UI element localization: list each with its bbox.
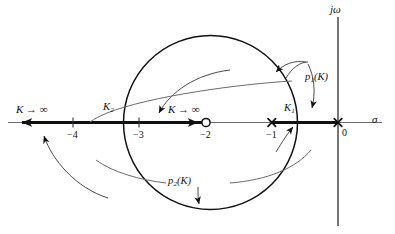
p2-annotation-curve	[96, 150, 311, 183]
root-locus-diagram	[0, 0, 395, 234]
axis-tick-label-minus1: −1	[266, 130, 277, 140]
jomega-axis-label: jω	[330, 4, 341, 15]
k1-label-subscript: 1	[291, 107, 295, 115]
p1-annotation-curve	[90, 81, 292, 122]
axis-tick-label-minus4: −4	[67, 130, 78, 140]
sigma-axis-label: σ	[372, 114, 377, 125]
origin-label: 0	[342, 128, 347, 138]
k-infinity-left-label: K → ∞	[16, 104, 48, 115]
p2-label: p2(K)	[168, 176, 191, 188]
axis-tick-label-minus3: −3	[133, 130, 144, 140]
k1-axis-arrow	[276, 127, 293, 152]
p1-label-arg: (K)	[314, 71, 328, 82]
k1-label: K1	[284, 103, 295, 115]
axis-tick-label-minus2: −2	[200, 130, 211, 140]
open-loop-zero-marker	[202, 118, 210, 126]
k2-label-subscript: 2	[110, 106, 114, 114]
k-infinity-right-label: K → ∞	[168, 104, 200, 115]
root-locus-figure: K → ∞ K → ∞ K1 K2 p1(K) p2(K) −4 −3 −2 −…	[0, 0, 395, 234]
k-infinity-left-leader	[44, 136, 108, 198]
p2-leader-arrow	[198, 187, 199, 204]
k2-label-text: K	[103, 101, 110, 112]
k1-label-text: K	[284, 102, 291, 113]
p1-label: p1(K)	[305, 72, 328, 84]
k2-label: K2	[103, 102, 114, 114]
p2-label-arg: (K)	[177, 175, 191, 186]
